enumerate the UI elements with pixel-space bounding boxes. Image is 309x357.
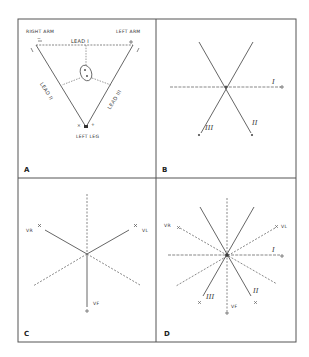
vr-axis [45,230,87,254]
vr-label: VR [164,223,171,228]
lead-2-axis [200,207,251,296]
panel-label-c: C [24,330,29,338]
vr-label: VR [26,228,33,233]
vf-label: VF [231,304,237,309]
vr-axis-neg [87,254,140,285]
panel-label-b: B [162,166,167,174]
vf-label: VF [93,301,99,306]
panel-c-diagram [33,194,140,313]
vl-axis [87,230,129,254]
panel-label-a: A [24,166,29,174]
polarity-x-ll: × [77,123,81,128]
figure-canvas [0,0,309,357]
left-arm-label: LEFT ARM [116,29,141,34]
left-leg-label: LEFT LEG [76,134,99,139]
lead-2-label: II [252,119,258,127]
lead-1-label: I [272,78,275,86]
lead-1-label: I [272,246,275,254]
polarity-plus-ll: + [91,122,95,127]
panel-b-diagram [170,42,284,136]
vl-axis-neg [33,254,87,286]
vl-axis [176,228,275,286]
lead-3-label: III [206,293,214,301]
lead-3-axis [203,207,254,296]
panel-a-diagram [31,40,139,128]
right-arm-label: RIGHT ARM [26,29,54,34]
lead-1-label: LEAD I [71,38,89,44]
heart-ellipse [78,64,94,83]
lead-3-line [86,45,133,127]
lead-3-label: III [205,124,213,132]
lead-2-label: II [253,287,259,295]
polarity-minus-ra: − [37,36,41,41]
vl-label: VL [281,224,287,229]
vl-label: VL [142,228,148,233]
panel-label-d: D [164,330,170,338]
panel-d-diagram [168,198,284,315]
